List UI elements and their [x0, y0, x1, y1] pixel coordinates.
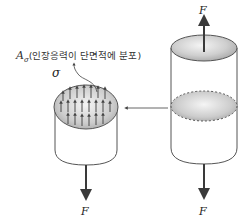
force-label-bottom-right: F: [199, 205, 207, 218]
force-label-bottom-left: F: [81, 205, 89, 218]
diagram-graphics: [0, 0, 249, 223]
stress-diagram: F F F σ Aσ(인장응력이 단면적에 분포): [0, 0, 249, 223]
internal-section: [171, 91, 237, 121]
area-symbol: A: [16, 49, 24, 62]
sigma-label: σ: [52, 66, 60, 80]
right-bar: [171, 20, 237, 194]
cross-section-face: [54, 85, 118, 129]
force-label-top-right: F: [199, 4, 207, 17]
area-caption: Aσ(인장응력이 단면적에 분포): [16, 48, 141, 64]
left-bar: [54, 64, 118, 195]
area-caption-text: (인장응력이 단면적에 분포): [29, 50, 141, 61]
